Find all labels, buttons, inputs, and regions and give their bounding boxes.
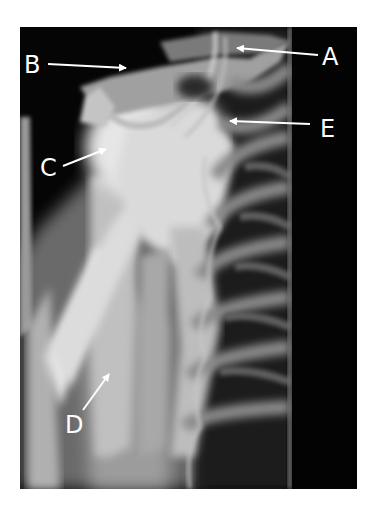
- arrow-a: [237, 48, 318, 55]
- label-c: C: [40, 156, 57, 180]
- label-b: B: [24, 53, 40, 77]
- label-a: A: [322, 45, 338, 69]
- arrow-d: [83, 374, 109, 410]
- arrow-b: [48, 64, 126, 68]
- annotation-arrows: [0, 0, 376, 510]
- arrow-c: [63, 149, 106, 166]
- label-d: D: [65, 413, 83, 437]
- label-e: E: [320, 117, 335, 141]
- arrow-e: [230, 121, 310, 124]
